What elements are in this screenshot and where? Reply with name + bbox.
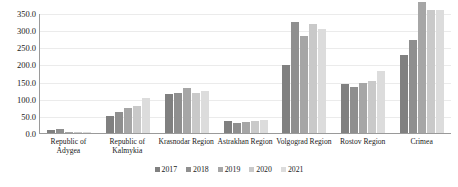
bar-group — [157, 14, 216, 133]
bar — [47, 130, 55, 133]
bar-group — [40, 14, 99, 133]
bar — [192, 93, 200, 133]
bar — [400, 55, 408, 133]
bar — [300, 36, 308, 133]
legend: 20172018201920202021 — [0, 166, 458, 174]
bar — [83, 132, 91, 133]
bar — [174, 93, 182, 133]
y-tick-label: 200.0 — [17, 61, 36, 70]
bar — [436, 10, 444, 133]
bar — [359, 83, 367, 133]
bar-group — [216, 14, 275, 133]
bar — [251, 121, 259, 133]
plot-area — [39, 14, 451, 134]
legend-item[interactable]: 2021 — [281, 166, 304, 174]
bar — [115, 112, 123, 133]
x-category-label: Republic of Kalmykia — [98, 137, 157, 156]
legend-label: 2017 — [162, 166, 178, 174]
legend-swatch-icon — [155, 167, 160, 172]
bar — [65, 132, 73, 133]
bar-group — [334, 14, 393, 133]
y-tick-label: 150.0 — [17, 78, 36, 87]
plot-frame — [39, 14, 451, 134]
legend-item[interactable]: 2020 — [249, 166, 272, 174]
bar — [291, 22, 299, 133]
bar — [368, 81, 376, 133]
bar-group — [275, 14, 334, 133]
bar — [318, 29, 326, 133]
legend-label: 2019 — [225, 166, 241, 174]
y-tick-label: 300.0 — [17, 27, 36, 36]
legend-swatch-icon — [281, 167, 286, 172]
bar — [74, 132, 82, 133]
legend-item[interactable]: 2017 — [155, 166, 178, 174]
legend-swatch-icon — [218, 167, 223, 172]
bar-group — [99, 14, 158, 133]
y-tick-label: 250.0 — [17, 44, 36, 53]
bar — [418, 2, 426, 133]
bar — [142, 98, 150, 133]
bar — [183, 88, 191, 133]
legend-swatch-icon — [249, 167, 254, 172]
bar — [133, 106, 141, 133]
bar-chart: 0.050.0100.0150.0200.0250.0300.0350.0 Re… — [0, 0, 458, 187]
bar-group — [392, 14, 451, 133]
bar — [309, 24, 317, 133]
bar — [224, 121, 232, 133]
legend-label: 2018 — [193, 166, 209, 174]
bar — [165, 94, 173, 133]
x-category-label: Republic of Adygea — [39, 137, 98, 156]
legend-item[interactable]: 2018 — [186, 166, 209, 174]
legend-label: 2021 — [288, 166, 304, 174]
x-category-label: Crimea — [392, 137, 451, 156]
legend-label: 2020 — [256, 166, 272, 174]
x-category-label: Rostov Region — [333, 137, 392, 156]
bar — [56, 129, 64, 133]
bar — [341, 84, 349, 133]
bar — [377, 71, 385, 133]
bar — [242, 122, 250, 133]
bar — [350, 87, 358, 133]
bar — [201, 91, 209, 133]
bar — [124, 108, 132, 133]
x-category-label: Astrakhan Region — [216, 137, 275, 156]
y-tick-label: 0.0 — [25, 130, 36, 139]
bar — [409, 40, 417, 133]
bar — [233, 123, 241, 133]
bars-layer — [40, 14, 451, 133]
x-axis: Republic of AdygeaRepublic of KalmykiaKr… — [39, 137, 451, 156]
x-category-label: Volgograd Region — [274, 137, 333, 156]
x-category-label: Krasnodar Region — [157, 137, 216, 156]
bar — [427, 10, 435, 133]
legend-swatch-icon — [186, 167, 191, 172]
bar — [260, 120, 268, 133]
bar — [282, 65, 290, 133]
bar — [106, 116, 114, 133]
y-tick-label: 50.0 — [21, 113, 36, 122]
legend-item[interactable]: 2019 — [218, 166, 241, 174]
y-tick-label: 100.0 — [17, 95, 36, 104]
y-tick-label: 350.0 — [17, 10, 36, 19]
y-axis: 0.050.0100.0150.0200.0250.0300.0350.0 — [0, 14, 36, 134]
